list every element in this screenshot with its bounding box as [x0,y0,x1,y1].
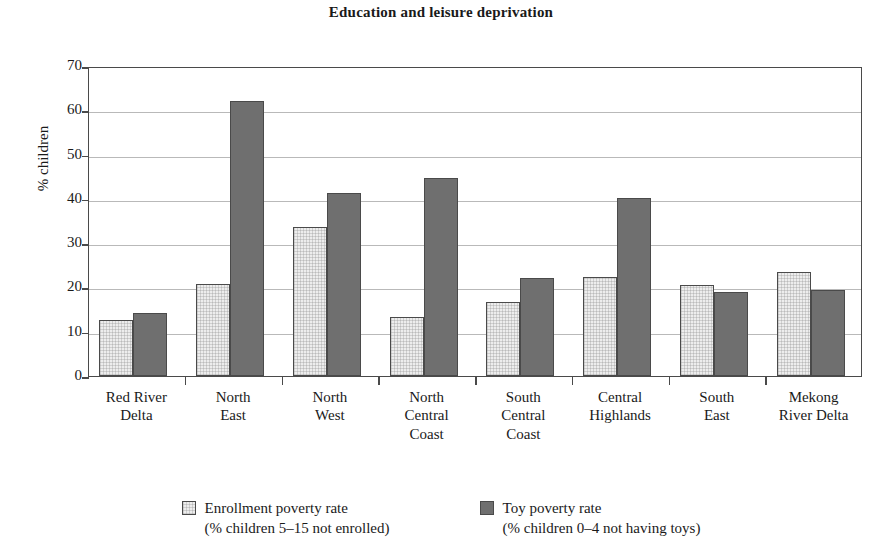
x-tick-label-line: South [669,388,766,406]
y-tick-mark [82,244,89,246]
bar-enrollment [390,317,424,376]
x-tick-label: CentralHighlands [572,388,669,425]
x-tick-label: NorthCentralCoast [378,388,475,443]
gridline [89,245,861,246]
legend-item-toy[interactable]: Toy poverty rate(% children 0–4 not havi… [480,498,701,539]
y-tick-label: 0 [36,368,82,383]
bar-enrollment [293,227,327,376]
bar-toy [617,198,651,376]
y-tick-label: 60 [36,102,82,117]
plot-area [88,67,862,377]
x-tick-label: SouthCentralCoast [475,388,572,443]
x-tick-mark [572,377,574,385]
gridline [89,201,861,202]
y-tick-label: 40 [36,191,82,206]
legend-label-sublabel: (% children 0–4 not having toys) [503,518,701,538]
legend-swatch-icon [182,501,196,515]
legend-label-sublabel: (% children 5–15 not enrolled) [205,518,390,538]
x-tick-label-line: Coast [475,425,572,443]
x-tick-label: SouthEast [669,388,766,425]
x-tick-label-line: West [282,406,379,424]
x-tick-label-line: North [185,388,282,406]
bar-enrollment [196,284,230,376]
bar-toy [811,290,845,376]
x-tick-mark [185,377,187,385]
x-tick-label-line: South [475,388,572,406]
y-tick-mark [82,333,89,335]
x-tick-label-line: Central [572,388,669,406]
legend-label: Toy poverty rate(% children 0–4 not havi… [503,498,701,539]
bar-toy [133,313,167,376]
bar-toy [520,278,554,376]
x-tick-label-line: Central [378,406,475,424]
x-tick-label-line: Coast [378,425,475,443]
y-tick-label: 50 [36,147,82,162]
bar-enrollment [486,302,520,376]
y-tick-label: 70 [36,58,82,73]
x-tick-label-line: East [669,406,766,424]
x-tick-mark [669,377,671,385]
x-tick-label-line: North [282,388,379,406]
x-tick-mark [765,377,767,385]
x-tick-mark [282,377,284,385]
bar-toy [230,101,264,376]
gridline [89,157,861,158]
legend-swatch-icon [480,501,494,515]
y-tick-label: 10 [36,324,82,339]
bar-enrollment [99,320,133,376]
y-axis-tick-labels: 706050403020100 [30,67,82,377]
x-tick-label-line: Delta [88,406,185,424]
x-tick-label: NorthEast [185,388,282,425]
x-tick-mark [475,377,477,385]
bar-enrollment [583,277,617,376]
x-tick-label-line: Central [475,406,572,424]
legend-label-title: Enrollment poverty rate [205,498,390,518]
bar-toy [327,193,361,376]
y-tick-label: 20 [36,279,82,294]
x-tick-label-line: Highlands [572,406,669,424]
x-tick-label: NorthWest [282,388,379,425]
y-tick-mark [82,156,89,158]
x-tick-label-line: East [185,406,282,424]
x-tick-label-line: River Delta [765,406,862,424]
y-tick-mark [82,377,89,379]
x-tick-label: Red RiverDelta [88,388,185,425]
chart-legend: Enrollment poverty rate(% children 5–15 … [0,498,882,539]
legend-item-enrollment[interactable]: Enrollment poverty rate(% children 5–15 … [182,498,390,539]
bar-enrollment [777,272,811,377]
y-tick-label: 30 [36,235,82,250]
x-tick-mark [378,377,380,385]
bar-toy [424,178,458,376]
chart-title: Education and leisure deprivation [0,4,882,21]
y-tick-mark [82,200,89,202]
y-tick-mark [82,111,89,113]
x-tick-label-line: Red River [88,388,185,406]
legend-label-title: Toy poverty rate [503,498,701,518]
bar-toy [714,292,748,376]
gridline [89,112,861,113]
x-tick-label-line: Mekong [765,388,862,406]
y-tick-mark [82,288,89,290]
legend-label: Enrollment poverty rate(% children 5–15 … [205,498,390,539]
x-tick-label: MekongRiver Delta [765,388,862,425]
bar-enrollment [680,285,714,376]
y-tick-mark [82,67,89,69]
x-tick-label-line: North [378,388,475,406]
